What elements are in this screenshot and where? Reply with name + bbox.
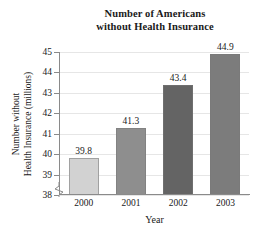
bar-value-label: 43.4	[158, 73, 198, 83]
y-axis-label: Number without Health Insurance (million…	[10, 71, 34, 175]
y-tick-label: 39	[32, 170, 52, 180]
bar-value-label: 39.8	[64, 146, 104, 156]
y-tick-mark	[54, 52, 59, 53]
y-tick-label: 42	[32, 108, 52, 118]
y-tick-label: 44	[32, 67, 52, 77]
chart-title-line-1: Number of Americans	[60, 8, 250, 21]
x-tick-label: 2002	[158, 198, 198, 209]
y-tick-mark	[54, 175, 59, 176]
y-tick-mark	[54, 154, 59, 155]
axis-break-icon	[53, 182, 65, 197]
bar	[116, 128, 146, 195]
y-axis-line	[59, 52, 60, 195]
y-tick-mark	[54, 134, 59, 135]
bar-value-label: 44.9	[205, 42, 245, 52]
bar	[210, 54, 240, 195]
x-tick-label: 2001	[111, 198, 151, 209]
x-axis-label: Year	[60, 214, 249, 225]
y-tick-mark	[54, 113, 59, 114]
bar	[163, 85, 193, 195]
y-tick-mark	[54, 72, 59, 73]
chart-title: Number of Americans without Health Insur…	[60, 8, 250, 33]
bar	[69, 158, 99, 195]
y-axis-label-line-1: Number without	[10, 71, 22, 175]
y-tick-label: 38	[32, 190, 52, 200]
y-tick-label: 41	[32, 129, 52, 139]
bar-chart-figure: Number of Americans without Health Insur…	[0, 0, 255, 238]
plot-area: 39.841.343.444.9	[60, 52, 249, 195]
gridline	[60, 52, 249, 53]
y-tick-label: 40	[32, 149, 52, 159]
bar-value-label: 41.3	[111, 116, 151, 126]
chart-title-line-2: without Health Insurance	[60, 21, 250, 34]
x-tick-label: 2003	[205, 198, 245, 209]
x-tick-label: 2000	[64, 198, 104, 209]
y-tick-label: 43	[32, 88, 52, 98]
y-tick-mark	[54, 93, 59, 94]
x-axis-line	[59, 194, 250, 195]
y-tick-label: 45	[32, 47, 52, 57]
